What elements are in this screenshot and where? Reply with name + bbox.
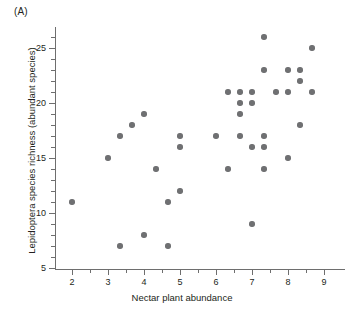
y-tick-major <box>49 103 55 104</box>
x-tick-minor <box>234 269 235 273</box>
data-point <box>105 155 110 160</box>
x-tick-label: 6 <box>206 277 226 287</box>
x-tick-label: 8 <box>278 277 298 287</box>
data-point <box>261 166 266 171</box>
x-tick-minor <box>306 269 307 273</box>
data-point <box>117 133 122 138</box>
data-point <box>249 144 254 149</box>
plot-area: 510152025 23456789 Nectar plant abundanc… <box>0 0 364 310</box>
data-point <box>225 89 230 94</box>
x-tick-label: 4 <box>134 277 154 287</box>
x-tick-label: 5 <box>170 277 190 287</box>
data-point <box>285 89 290 94</box>
data-point <box>177 133 182 138</box>
x-tick-minor <box>270 269 271 273</box>
x-tick-label: 7 <box>242 277 262 287</box>
data-point <box>249 100 254 105</box>
y-axis-title: Lepidoptera species richness (abundant s… <box>26 31 37 271</box>
y-tick-major <box>49 48 55 49</box>
data-point <box>141 232 146 237</box>
data-point <box>249 89 254 94</box>
data-point <box>177 188 182 193</box>
y-tick-minor <box>51 202 55 203</box>
data-point <box>141 111 146 116</box>
y-tick-minor <box>51 59 55 60</box>
y-tick-minor <box>51 257 55 258</box>
x-tick-major <box>324 269 325 275</box>
y-tick-major <box>49 213 55 214</box>
y-tick-minor <box>51 136 55 137</box>
data-point <box>129 122 134 127</box>
x-tick-minor <box>90 269 91 273</box>
x-tick-minor <box>162 269 163 273</box>
data-point <box>237 100 242 105</box>
data-point <box>297 78 302 83</box>
y-axis-spine <box>55 27 56 270</box>
data-point <box>69 199 74 204</box>
y-tick-minor <box>51 81 55 82</box>
data-point <box>309 89 314 94</box>
x-tick-major <box>180 269 181 275</box>
data-point <box>165 199 170 204</box>
data-point <box>153 166 158 171</box>
x-tick-label: 3 <box>98 277 118 287</box>
y-tick-minor <box>51 92 55 93</box>
y-tick-minor <box>51 191 55 192</box>
x-axis-title: Nectar plant abundance <box>0 292 364 303</box>
x-tick-major <box>288 269 289 275</box>
x-axis-spine <box>55 269 345 270</box>
y-tick-minor <box>51 147 55 148</box>
data-point <box>225 166 230 171</box>
y-tick-minor <box>51 169 55 170</box>
y-tick-minor <box>51 70 55 71</box>
x-tick-major <box>72 269 73 275</box>
data-point <box>213 133 218 138</box>
data-point <box>261 67 266 72</box>
y-tick-minor <box>51 114 55 115</box>
data-point <box>261 144 266 149</box>
data-point <box>177 144 182 149</box>
y-tick-major <box>49 268 55 269</box>
scatter-plot-figure: (A) 510152025 23456789 Nectar plant abun… <box>0 0 364 310</box>
x-tick-major <box>108 269 109 275</box>
y-tick-minor <box>51 224 55 225</box>
data-point <box>309 45 314 50</box>
y-tick-minor <box>51 125 55 126</box>
x-tick-label: 9 <box>314 277 334 287</box>
data-point <box>261 133 266 138</box>
data-point <box>237 133 242 138</box>
data-point <box>237 89 242 94</box>
y-tick-minor <box>51 37 55 38</box>
y-tick-minor <box>51 235 55 236</box>
x-tick-minor <box>198 269 199 273</box>
data-point <box>237 111 242 116</box>
x-tick-major <box>252 269 253 275</box>
x-tick-minor <box>126 269 127 273</box>
data-point <box>249 221 254 226</box>
y-tick-minor <box>51 180 55 181</box>
data-point <box>165 243 170 248</box>
x-tick-major <box>216 269 217 275</box>
y-tick-minor <box>51 246 55 247</box>
data-point <box>117 243 122 248</box>
data-point <box>285 67 290 72</box>
y-tick-major <box>49 158 55 159</box>
data-point <box>273 89 278 94</box>
data-point <box>285 155 290 160</box>
x-tick-major <box>144 269 145 275</box>
data-point <box>297 122 302 127</box>
data-point <box>297 67 302 72</box>
data-point <box>261 34 266 39</box>
x-tick-label: 2 <box>62 277 82 287</box>
